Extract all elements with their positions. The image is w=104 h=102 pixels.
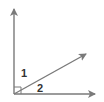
diagram-svg: 1 2 [0,0,104,102]
angle-diagram: 1 2 [0,0,104,102]
angle-1-label: 1 [21,67,27,79]
angle-2-label: 2 [37,82,43,94]
